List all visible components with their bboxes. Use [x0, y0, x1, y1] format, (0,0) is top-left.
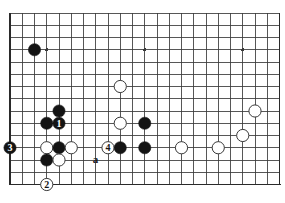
- black-stone[interactable]: [114, 142, 126, 154]
- star-point: [241, 48, 244, 51]
- white-stone[interactable]: [249, 105, 261, 117]
- black-stone[interactable]: [139, 142, 151, 154]
- go-board-diagram: 1324 a: [0, 0, 285, 203]
- white-stone[interactable]: [41, 142, 53, 154]
- move-number-label: 1: [57, 118, 62, 129]
- white-stone[interactable]: [53, 154, 65, 166]
- move-number-label: 3: [8, 142, 13, 153]
- goban-canvas[interactable]: 1324: [0, 0, 285, 203]
- black-stone[interactable]: [53, 105, 65, 117]
- white-stone[interactable]: [237, 129, 249, 141]
- white-stone[interactable]: [114, 80, 126, 92]
- black-stone[interactable]: [28, 44, 40, 56]
- white-stone[interactable]: [65, 142, 77, 154]
- star-point: [143, 48, 146, 51]
- move-number-label: 2: [44, 179, 49, 190]
- black-stone[interactable]: [53, 142, 65, 154]
- black-stone[interactable]: [41, 154, 53, 166]
- move-number-label: 4: [106, 142, 111, 153]
- white-stone[interactable]: [175, 142, 187, 154]
- black-stone[interactable]: [139, 117, 151, 129]
- white-stone[interactable]: [114, 117, 126, 129]
- white-stone[interactable]: [212, 142, 224, 154]
- star-point: [45, 48, 48, 51]
- black-stone[interactable]: [41, 117, 53, 129]
